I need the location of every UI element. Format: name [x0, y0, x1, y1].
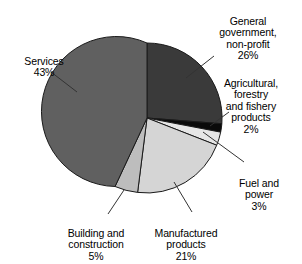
pie-label-services-percent: 43%	[4, 67, 84, 79]
pie-label-building-and-construction-percent: 5%	[46, 251, 146, 263]
pie-label-general-government-percent: 26%	[196, 50, 300, 62]
pie-chart: General government, non-profit 26% Agric…	[0, 0, 302, 264]
pie-label-services: Services 43%	[4, 44, 84, 90]
pie-label-general-government: General government, non-profit 26%	[196, 4, 300, 74]
pie-label-manufactured-products: Manufactured products 21%	[134, 216, 238, 264]
pie-label-agricultural-percent: 2%	[202, 124, 300, 136]
pie-label-building-and-construction: Building and construction 5%	[46, 216, 146, 264]
pie-label-manufactured-products-text: Manufactured products	[154, 227, 217, 251]
pie-label-general-government-text: General government, non-profit	[219, 15, 276, 50]
pie-label-agricultural-text: Agricultural, forestry and fishery produ…	[224, 77, 278, 124]
pie-label-services-text: Services	[24, 55, 63, 67]
pie-label-building-and-construction-text: Building and construction	[68, 227, 125, 251]
pie-label-fuel-and-power-text: Fuel and power	[239, 177, 279, 201]
pie-label-agricultural: Agricultural, forestry and fishery produ…	[202, 66, 300, 147]
leader-line-manufactured-products	[174, 182, 192, 212]
pie-label-manufactured-products-percent: 21%	[134, 251, 238, 263]
leader-line-building-and-construction	[108, 190, 124, 214]
pie-label-fuel-and-power-percent: 3%	[218, 201, 300, 213]
